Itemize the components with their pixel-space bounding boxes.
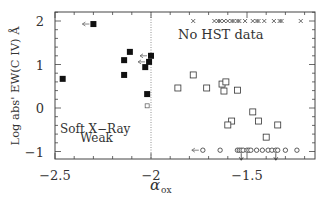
open-circle-marker <box>260 148 264 152</box>
cross-marker <box>243 19 247 23</box>
y-tick-label: 2 <box>36 14 44 29</box>
cross-marker <box>212 19 216 23</box>
y-tick-label: 0 <box>36 101 44 116</box>
filled-square-marker <box>60 76 66 82</box>
open-circle-marker <box>218 148 222 152</box>
filled-square-marker <box>148 53 154 59</box>
annotation-no-hst-data: No HST data <box>178 27 264 42</box>
open-square-marker <box>204 85 210 91</box>
open-square-marker <box>225 122 231 128</box>
annotation-weak: Weak <box>80 131 114 145</box>
open-square-marker <box>263 134 269 140</box>
open-square-marker <box>190 72 196 78</box>
open-circle-marker <box>254 148 258 152</box>
cross-marker <box>251 19 255 23</box>
cross-marker <box>299 19 303 23</box>
axis-ticks: −2.5−2−1.5−1012 <box>25 12 315 183</box>
scatter-chart: −2.5−2−1.5−1012 No HST data Soft X−Ray W… <box>0 0 324 201</box>
open-circle-marker <box>276 148 280 152</box>
open-square-marker <box>256 118 262 124</box>
open-circle-marker <box>201 148 205 152</box>
x-axis-label-subscript: ox <box>161 185 172 195</box>
open-square-marker <box>234 87 240 93</box>
filled-square-marker <box>142 64 148 70</box>
cross-marker <box>226 19 230 23</box>
open-square-marker <box>221 88 227 94</box>
open-circle-marker <box>249 148 253 152</box>
cross-marker <box>191 19 195 23</box>
open-circle-marker <box>295 148 299 152</box>
y-axis-label: Log abs' EW(C IV) Å <box>8 26 22 146</box>
filled-square-marker <box>146 59 152 65</box>
open-small-square-marker <box>145 104 149 108</box>
x-tick-label: −2.5 <box>39 168 71 183</box>
x-axis-label-alpha: α <box>150 176 160 194</box>
cross-marker <box>222 19 226 23</box>
filled-square-marker <box>127 49 133 55</box>
cross-marker <box>272 19 276 23</box>
open-circle-marker <box>283 148 287 152</box>
y-tick-label: −1 <box>25 145 44 160</box>
cross-marker <box>262 19 266 23</box>
open-square-marker <box>275 122 281 128</box>
filled-square-marker <box>90 21 96 27</box>
open-square-marker <box>250 109 256 115</box>
x-tick-label: −1.5 <box>231 168 263 183</box>
filled-square-marker <box>121 57 127 63</box>
filled-square-marker <box>121 72 127 78</box>
open-square-marker <box>175 85 181 91</box>
filled-square-marker <box>144 91 150 97</box>
open-square-marker <box>223 79 229 85</box>
y-tick-label: 1 <box>36 58 44 73</box>
